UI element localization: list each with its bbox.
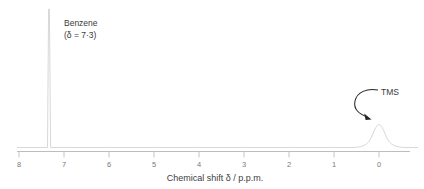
tick-label-0: 0	[377, 160, 381, 169]
tick-label-1: 1	[332, 160, 336, 169]
tick-label-8: 8	[17, 160, 21, 169]
tms-pointer-arrow	[355, 89, 378, 117]
tick-label-7: 7	[62, 160, 66, 169]
benzene-annotation-line1: Benzene	[64, 18, 98, 28]
tick-label-2: 2	[287, 160, 291, 169]
x-axis-tick-labels: 8 7 6 5 4 3 2 1 0	[17, 160, 381, 169]
x-axis-ticks	[19, 152, 379, 158]
benzene-annotation: Benzene (δ = 7·3)	[64, 18, 98, 40]
tick-label-6: 6	[107, 160, 111, 169]
benzene-annotation-line2: (δ = 7·3)	[64, 30, 97, 40]
tms-annotation: TMS	[355, 87, 400, 120]
x-axis-caption: Chemical shift δ / p.p.m.	[167, 173, 264, 183]
tms-peak-trace	[352, 125, 418, 148]
tick-label-3: 3	[242, 160, 246, 169]
tms-pointer-arrowhead	[364, 114, 371, 120]
tms-annotation-label: TMS	[381, 87, 399, 97]
nmr-spectrum-figure: 8 7 6 5 4 3 2 1 0 Chemical shift δ / p.p…	[0, 0, 424, 189]
tick-label-4: 4	[197, 160, 201, 169]
spectrum-canvas: 8 7 6 5 4 3 2 1 0 Chemical shift δ / p.p…	[0, 0, 424, 189]
tick-label-5: 5	[152, 160, 156, 169]
